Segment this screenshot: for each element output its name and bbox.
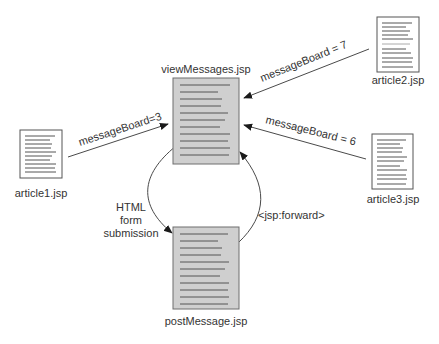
- form-submission-label-line3: submission: [103, 227, 158, 239]
- article2-label: article2.jsp: [372, 74, 425, 86]
- edge-article2-to-view: messageBoard = 7: [244, 38, 369, 98]
- node-article1: article1.jsp: [15, 130, 68, 199]
- edge-view-to-post: HTML form submission: [103, 146, 176, 239]
- form-submission-label-line2: form: [120, 214, 142, 226]
- node-post-message: postMessage.jsp: [165, 227, 248, 327]
- edge-post-to-view: <jsp:forward>: [238, 152, 325, 243]
- article3-edge-label: messageBoard = 6: [265, 113, 358, 147]
- edge-article3-to-view: messageBoard = 6: [244, 113, 366, 159]
- article1-edge-label: messageBoard=3: [77, 110, 163, 148]
- form-submission-label-line1: HTML: [116, 201, 146, 213]
- view-messages-document-icon: [173, 78, 239, 164]
- article1-label: article1.jsp: [15, 187, 68, 199]
- node-article3: article3.jsp: [367, 134, 420, 205]
- view-messages-label: viewMessages.jsp: [161, 63, 250, 75]
- article3-label: article3.jsp: [367, 193, 420, 205]
- node-article2: article2.jsp: [372, 17, 425, 86]
- edge-article1-to-view: messageBoard=3: [68, 110, 168, 157]
- node-view-messages: viewMessages.jsp: [161, 63, 250, 164]
- post-message-label: postMessage.jsp: [165, 315, 248, 327]
- jsp-forward-arrow: [238, 152, 261, 243]
- article1-document-icon: [20, 130, 62, 178]
- jsp-forward-label: <jsp:forward>: [258, 209, 325, 221]
- flow-diagram: HTML form submission <jsp:forward> messa…: [0, 0, 439, 344]
- article2-edge-label: messageBoard = 7: [258, 38, 348, 84]
- form-submission-arrow: [148, 146, 176, 233]
